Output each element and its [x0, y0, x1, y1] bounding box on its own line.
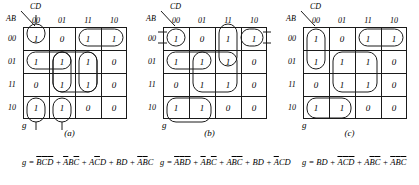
col-header-c-1: 01 [329, 14, 355, 26]
col-header-b-0: 00 [163, 14, 189, 26]
kmap-grid-b: 00 01 11 10 1 0 1 1 1 1 1 0 0 1 1 0 [163, 27, 267, 119]
equation-a: g = BCD + ABC + ACD + BD + ABC [22, 156, 153, 169]
row-header-a-3: 10 [2, 96, 22, 119]
panel-caption-b: (b) [140, 128, 279, 138]
equations-row: g = BCD + ABC + ACD + BD + ABC g = ABD +… [0, 152, 419, 185]
row-header-a-2: 11 [2, 73, 22, 96]
row-header-a-1: 01 [2, 50, 22, 73]
row-header-b-3: 10 [142, 96, 162, 119]
row-header-a-0: 00 [2, 27, 22, 50]
panel-caption-a: (a) [0, 128, 139, 138]
grouping-loops-c [303, 27, 407, 119]
col-header-a-3: 10 [101, 14, 127, 26]
kmap-grid-a: 00 01 11 10 1 0 1 1 1 1 1 0 0 1 1 0 [23, 27, 127, 119]
col-header-b-3: 10 [241, 14, 267, 26]
col-header-c-3: 10 [381, 14, 407, 26]
col-header-a-1: 01 [49, 14, 75, 26]
row-header-b-1: 01 [142, 50, 162, 73]
row-header-label-c: AB [286, 14, 296, 23]
kmap-grid-c: 00 01 11 10 1 0 1 1 1 1 1 0 0 1 1 0 [303, 27, 407, 119]
row-header-c-1: 01 [282, 50, 302, 73]
grouping-loops-b [163, 27, 267, 119]
row-header-c-2: 11 [282, 73, 302, 96]
kmap-panel-c: CD AB 00 01 11 10 00 01 11 10 1 0 1 1 1 [280, 0, 419, 150]
grouping-loops-a [23, 27, 127, 119]
col-header-c-2: 11 [355, 14, 381, 26]
row-header-c-3: 10 [282, 96, 302, 119]
karnaugh-map-figure: CD AB 00 01 11 10 00 01 11 10 1 0 1 1 1 [0, 0, 419, 185]
row-header-label-b: AB [146, 14, 156, 23]
equation-c: g = BD + ACD + ABC + ABC [302, 156, 406, 169]
row-header-b-2: 11 [142, 73, 162, 96]
kmap-panel-a: CD AB 00 01 11 10 00 01 11 10 1 0 1 1 1 [0, 0, 139, 150]
equation-b: g = ABD + ABC + ABC + BD + ACD [160, 156, 291, 169]
col-header-a-2: 11 [75, 14, 101, 26]
col-header-c-0: 00 [303, 14, 329, 26]
row-header-b-0: 00 [142, 27, 162, 50]
row-header-c-0: 00 [282, 27, 302, 50]
panel-caption-c: (c) [280, 128, 419, 138]
kmap-panel-b: CD AB 00 01 11 10 00 01 11 10 1 0 1 1 1 [140, 0, 279, 150]
col-header-b-1: 01 [189, 14, 215, 26]
row-header-label-a: AB [6, 14, 16, 23]
